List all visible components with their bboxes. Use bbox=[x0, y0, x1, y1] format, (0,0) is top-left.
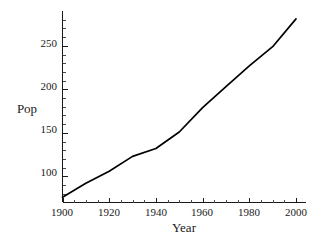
y-axis bbox=[63, 11, 68, 202]
x-tick-label-1920: 1920 bbox=[98, 206, 121, 218]
x-tick-label-1960: 1960 bbox=[191, 206, 214, 218]
x-tick-label-2000: 2000 bbox=[285, 206, 308, 218]
x-tick-label-1900: 1900 bbox=[51, 206, 74, 218]
x-axis-minor-ticks bbox=[64, 200, 297, 203]
x-axis bbox=[63, 198, 307, 203]
x-axis-title: Year bbox=[172, 220, 197, 235]
population-data-line bbox=[63, 19, 297, 197]
y-tick-labels: 100 150 200 250 bbox=[41, 37, 58, 178]
x-tick-label-1980: 1980 bbox=[238, 206, 261, 218]
y-axis-title: Pop bbox=[17, 101, 37, 116]
y-tick-label-250: 250 bbox=[41, 37, 58, 49]
chart-canvas: 100 150 200 250 1900 1920 1940 1960 1980… bbox=[0, 0, 314, 239]
x-tick-labels: 1900 1920 1940 1960 1980 2000 bbox=[51, 206, 308, 218]
x-tick-label-1940: 1940 bbox=[145, 206, 168, 218]
population-line-chart: 100 150 200 250 1900 1920 1940 1960 1980… bbox=[0, 0, 314, 239]
y-tick-label-150: 150 bbox=[41, 123, 58, 135]
y-axis-major-ticks bbox=[63, 47, 68, 177]
y-tick-label-100: 100 bbox=[41, 166, 58, 178]
y-tick-label-200: 200 bbox=[41, 80, 58, 92]
